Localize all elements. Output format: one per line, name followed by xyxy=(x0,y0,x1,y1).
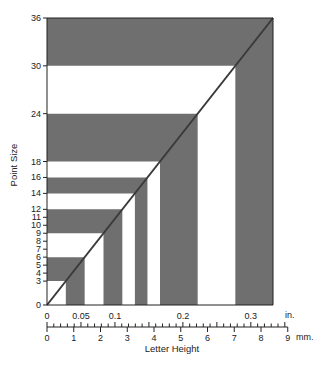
inch-unit-label: in. xyxy=(285,310,295,320)
y-tick-label: 16 xyxy=(31,172,41,182)
y-tick-label: 12 xyxy=(31,204,41,214)
y-axis-title: Point Size xyxy=(8,144,19,187)
x-tick-label-in: 0.05 xyxy=(72,311,90,321)
x-tick-label-in: 0.3 xyxy=(245,311,258,321)
x-tick-label-mm: 3 xyxy=(125,333,130,343)
y-tick-label: 36 xyxy=(31,13,41,23)
x-tick-label-mm: 9 xyxy=(285,333,290,343)
x-tick-label-mm: 5 xyxy=(178,333,183,343)
x-tick-label-mm: 8 xyxy=(258,333,263,343)
y-tick-label: 24 xyxy=(31,109,41,119)
y-tick-label: 30 xyxy=(31,61,41,71)
y-axis-ticks: 03456789101112141618243036 xyxy=(31,13,47,310)
x-tick-label-in: 0 xyxy=(44,311,49,321)
x-tick-label-mm: 2 xyxy=(98,333,103,343)
y-tick-label: 0 xyxy=(36,300,41,310)
y-tick-label: 14 xyxy=(31,188,41,198)
letter-height-chart: 03456789101112141618243036 012345678900.… xyxy=(0,0,317,367)
x-tick-label-mm: 0 xyxy=(44,333,49,343)
mm-unit-label: mm. xyxy=(296,332,314,342)
x-axis-ruler: 012345678900.050.10.20.3 xyxy=(44,311,290,343)
x-tick-label-in: 0.1 xyxy=(109,311,122,321)
x-tick-label-mm: 6 xyxy=(205,333,210,343)
x-tick-label-mm: 1 xyxy=(71,333,76,343)
x-tick-label-mm: 7 xyxy=(232,333,237,343)
x-tick-label-in: 0.2 xyxy=(177,311,190,321)
x-axis-title: Letter Height xyxy=(145,343,200,354)
y-tick-label: 18 xyxy=(31,157,41,167)
x-tick-label-mm: 4 xyxy=(151,333,156,343)
